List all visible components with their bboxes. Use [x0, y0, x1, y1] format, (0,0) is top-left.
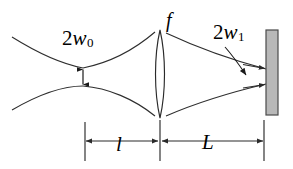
label-f-variable: f [166, 9, 172, 31]
label-beam-waist-input: 2w0 [62, 28, 94, 49]
label-beam-waist-output: 2w1 [213, 22, 245, 43]
label-2w1-variable: w [224, 20, 238, 44]
label-L-variable: L [202, 130, 214, 154]
screen [266, 30, 278, 115]
beam-envelope-lower [12, 84, 266, 116]
label-distance-before-lens: l [116, 134, 122, 155]
beam-lower-waist-to-lens [83, 86, 155, 116]
label-2w0-coefficient: 2 [62, 26, 73, 50]
label-focal-length: f [166, 10, 172, 30]
spot-arrow-upper [243, 65, 265, 69]
label-2w0-subscript: 0 [87, 35, 94, 50]
lens [156, 30, 165, 118]
optics-diagram-svg [0, 0, 293, 169]
label-2w1-coefficient: 2 [213, 20, 224, 44]
label-distance-after-lens: L [202, 132, 214, 153]
label-2w1-subscript: 1 [238, 29, 245, 44]
beam-lower-left-of-waist [12, 86, 83, 110]
spot-size-arrows [243, 65, 265, 89]
beam-lower-lens-to-screen [166, 84, 266, 116]
leader-line-2w1 [225, 47, 246, 75]
label-l-variable: l [116, 132, 122, 156]
dimension-lines [85, 120, 264, 161]
optics-diagram: 2w0 2w1 f l L [0, 0, 293, 169]
label-2w0-variable: w [73, 26, 87, 50]
